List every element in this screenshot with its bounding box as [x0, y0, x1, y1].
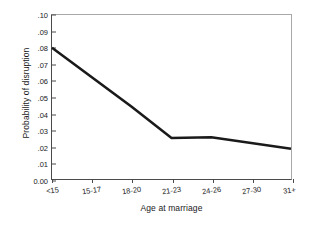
- x-tick-label: 31+: [282, 185, 296, 196]
- y-tick-label: .10: [38, 11, 52, 20]
- y-tick-label: .04: [38, 110, 52, 119]
- x-axis-tick-labels: <1515-1718-2021-2324-2627-3031+: [51, 184, 292, 200]
- x-tick-mark: [173, 179, 174, 183]
- plot-area: 0.00.01.02.03.04.05.06.07.08.09.10: [51, 14, 292, 180]
- y-tick-label: .01: [38, 160, 52, 169]
- y-tick-label: .07: [38, 60, 52, 69]
- x-tick-mark: [132, 179, 133, 183]
- y-tick-label: .06: [38, 77, 52, 86]
- series-line-probability-of-disruption: [52, 48, 291, 149]
- x-tick-label: 15-17: [81, 185, 101, 197]
- y-axis-title: Probability of disruption: [19, 8, 33, 178]
- x-tick-mark: [92, 179, 93, 183]
- chart-container: Probability of disruption 0.00.01.02.03.…: [0, 0, 317, 225]
- x-tick-mark: [213, 179, 214, 183]
- y-tick-label: .03: [38, 127, 52, 136]
- x-tick-label: 24-26: [202, 185, 222, 197]
- y-tick-label: .02: [38, 143, 52, 152]
- y-tick-label: .05: [38, 94, 52, 103]
- x-tick-label: 27-30: [242, 185, 262, 197]
- x-tick-mark: [52, 179, 53, 183]
- x-tick-mark: [253, 179, 254, 183]
- x-tick-mark: [293, 179, 294, 183]
- x-axis-title: Age at marriage: [51, 203, 292, 213]
- x-tick-label: <15: [45, 185, 59, 196]
- x-tick-label: 18-20: [121, 185, 141, 197]
- y-tick-label: .08: [38, 44, 52, 53]
- data-line-svg: [52, 15, 291, 179]
- x-tick-label: 21-23: [161, 185, 181, 197]
- y-tick-label: 0.00: [33, 177, 52, 186]
- y-tick-label: .09: [38, 27, 52, 36]
